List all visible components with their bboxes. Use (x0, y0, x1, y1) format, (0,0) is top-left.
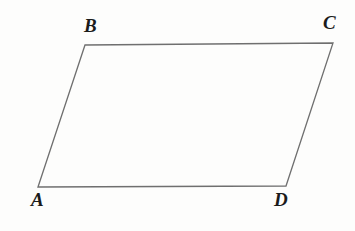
vertex-label-b: B (84, 16, 97, 35)
vertex-label-d: D (274, 190, 288, 209)
parallelogram-diagram (0, 0, 355, 231)
parallelogram-outline (38, 43, 333, 187)
vertex-label-c: C (323, 13, 336, 32)
geometry-figure-canvas: A B C D (0, 0, 355, 231)
vertex-label-a: A (31, 190, 44, 209)
